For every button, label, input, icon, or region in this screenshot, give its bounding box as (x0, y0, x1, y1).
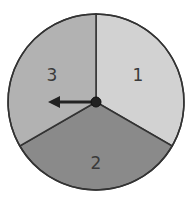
spinner-pivot (91, 97, 101, 107)
spinner-diagram: 1 2 3 (0, 0, 189, 203)
section-3-label: 3 (47, 65, 58, 85)
section-1-label: 1 (133, 65, 144, 85)
section-2-label: 2 (91, 153, 102, 173)
